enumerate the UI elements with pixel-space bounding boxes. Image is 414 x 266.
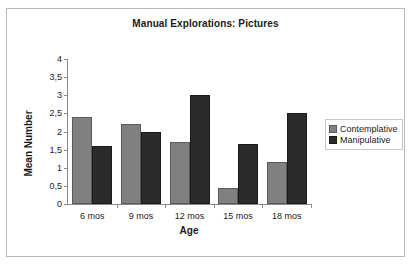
bar-manipulative-12-mos [190, 95, 210, 204]
bar-manipulative-15-mos [238, 144, 258, 204]
y-axis-tick-label: 2,5 [49, 108, 62, 118]
y-axis-tick [64, 59, 68, 60]
legend-item-manipulative: Manipulative [329, 135, 398, 145]
y-axis-tick-label: 2 [57, 127, 62, 137]
y-axis-title-text: Mean Number [23, 99, 34, 189]
plot-area: 00,511,522,533,546 mos9 mos12 mos15 mos1… [67, 59, 311, 205]
y-axis-tick-label: 1 [57, 163, 62, 173]
bar-manipulative-9-mos [141, 132, 161, 205]
bar-manipulative-18-mos [287, 113, 307, 204]
y-axis-tick [64, 77, 68, 78]
legend-label: Manipulative [340, 135, 391, 145]
bar-contemplative-9-mos [121, 124, 141, 204]
chart-legend: ContemplativeManipulative [325, 119, 403, 150]
y-axis-tick [64, 113, 68, 114]
bar-contemplative-6-mos [72, 117, 92, 204]
x-axis-tick [165, 204, 166, 208]
bar-contemplative-12-mos [170, 142, 190, 204]
chart-title: Manual Explorations: Pictures [7, 18, 404, 29]
x-axis-tick-label: 18 mos [272, 211, 302, 221]
x-axis-tick-label: 12 mos [175, 211, 205, 221]
x-axis-tick-label: 15 mos [223, 211, 253, 221]
y-axis-tick [64, 204, 68, 205]
legend-swatch-icon [329, 125, 337, 133]
y-axis-tick [64, 168, 68, 169]
bar-contemplative-18-mos [267, 162, 287, 204]
legend-label: Contemplative [340, 124, 398, 134]
bar-contemplative-15-mos [218, 188, 238, 204]
y-axis-tick-label: 1,5 [49, 145, 62, 155]
y-axis-tick-label: 3 [57, 90, 62, 100]
y-axis-tick-label: 0 [57, 199, 62, 209]
y-axis-tick [64, 132, 68, 133]
y-axis-tick [64, 150, 68, 151]
legend-item-contemplative: Contemplative [329, 124, 398, 134]
x-axis-tick-label: 9 mos [129, 211, 154, 221]
y-axis-tick [64, 186, 68, 187]
x-axis-tick-label: 6 mos [80, 211, 105, 221]
y-axis-tick-label: 0,5 [49, 181, 62, 191]
chart-figure: Manual Explorations: Pictures Mean Numbe… [6, 8, 405, 257]
bar-manipulative-6-mos [92, 146, 112, 204]
y-axis-tick-label: 4 [57, 54, 62, 64]
x-axis-tick [262, 204, 263, 208]
x-axis-tick [214, 204, 215, 208]
legend-swatch-icon [329, 136, 337, 144]
x-axis-tick [117, 204, 118, 208]
x-axis-title: Age [67, 225, 311, 236]
y-axis-tick [64, 95, 68, 96]
y-axis-tick-label: 3,5 [49, 72, 62, 82]
x-axis-tick [311, 204, 312, 208]
y-axis-title: Mean Number [21, 99, 35, 189]
